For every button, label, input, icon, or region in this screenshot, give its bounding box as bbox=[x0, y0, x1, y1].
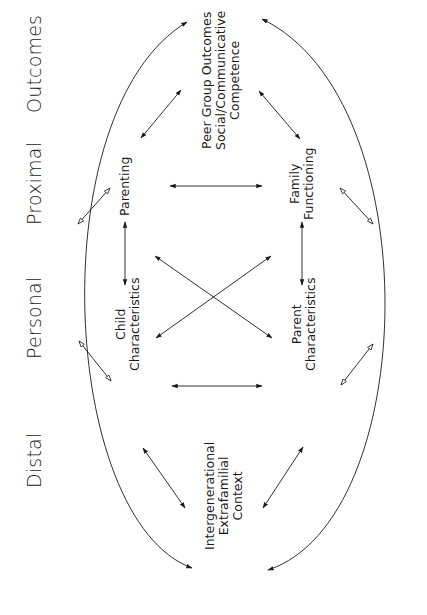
node-child-characteristics: Child Characteristics bbox=[114, 278, 142, 371]
stage-label-proximal: Proximal bbox=[24, 142, 45, 225]
node-line: Parenting bbox=[118, 157, 132, 216]
node-line: Child bbox=[114, 278, 128, 371]
node-line: Parent bbox=[290, 278, 304, 371]
stage-label-distal: Distal bbox=[24, 433, 45, 488]
node-line: Social/Communicative bbox=[214, 11, 228, 150]
node-line: Characteristics bbox=[128, 278, 142, 371]
node-parent-characteristics: Parent Characteristics bbox=[290, 278, 318, 371]
node-line: Peer Group Outcomes bbox=[200, 11, 214, 150]
outer-arc-right bbox=[262, 19, 385, 570]
node-family-functioning: Family Functioning bbox=[288, 148, 316, 221]
node-line: Competence bbox=[228, 11, 242, 150]
node-parenting: Parenting bbox=[118, 157, 132, 216]
stage-label-personal: Personal bbox=[24, 277, 45, 359]
hollow-arrow-left-personal bbox=[79, 341, 111, 381]
hollow-arrow-right-proximal bbox=[340, 188, 373, 224]
node-line: Context bbox=[231, 442, 245, 550]
node-line: Intergenerational bbox=[203, 442, 217, 550]
hollow-arrow-right-personal bbox=[341, 344, 373, 385]
hollow-arrow-left-proximal bbox=[78, 188, 110, 224]
arrow-child-intergen bbox=[143, 448, 185, 508]
arrow-family-peer bbox=[259, 91, 300, 139]
node-intergenerational-context: Intergenerational Extrafamilial Context bbox=[203, 442, 245, 550]
node-line: Family bbox=[288, 148, 302, 221]
arrow-parent-intergen bbox=[263, 447, 303, 508]
stage-label-outcomes: Outcomes bbox=[24, 15, 45, 113]
family-model-diagram: Outcomes Proximal Personal Distal Peer G… bbox=[0, 0, 427, 615]
node-line: Functioning bbox=[302, 148, 316, 221]
arrow-parenting-peer bbox=[141, 90, 181, 138]
node-line: Extrafamilial bbox=[217, 442, 231, 550]
node-peer-group-outcomes: Peer Group Outcomes Social/Communicative… bbox=[200, 11, 242, 150]
node-line: Characteristics bbox=[304, 278, 318, 371]
